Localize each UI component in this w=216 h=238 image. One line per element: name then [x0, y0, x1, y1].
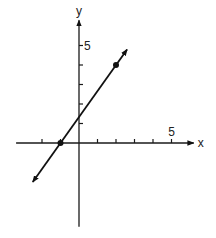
axis-ticks	[42, 46, 172, 144]
axis-labels: x y 55	[76, 4, 204, 150]
data-point	[113, 62, 119, 68]
series	[33, 49, 127, 182]
data-point	[58, 140, 64, 146]
series-line	[33, 49, 127, 182]
x-axis-label: x	[198, 136, 204, 150]
coordinate-plane: x y 55	[0, 0, 216, 238]
axes	[16, 20, 194, 227]
x-tick-label: 5	[168, 125, 175, 139]
y-axis-label: y	[76, 4, 82, 18]
y-tick-label: 5	[84, 39, 91, 53]
